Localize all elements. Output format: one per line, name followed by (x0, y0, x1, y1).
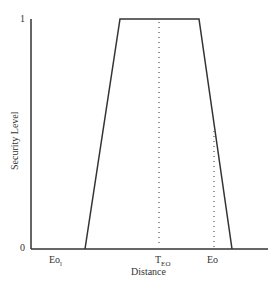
x-axis-label: Distance (131, 266, 166, 277)
eo-l-main: Eo (49, 254, 60, 265)
security-level-trapezoid (85, 19, 232, 249)
eo-l-sub: l (60, 260, 62, 268)
y-axis-label: Security Level (9, 111, 20, 170)
y-tick-0: 0 (20, 242, 25, 253)
y-tick-1: 1 (20, 13, 25, 24)
eo-l-marker-label: Eol (49, 254, 62, 268)
trapezoid-chart (0, 0, 279, 288)
eo-marker-label: Eo (207, 254, 218, 265)
